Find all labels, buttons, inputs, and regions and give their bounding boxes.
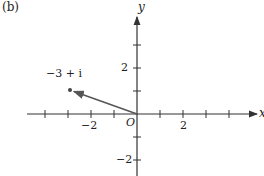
panel-label: (b) — [2, 0, 19, 14]
complex-plane-diagram — [0, 0, 264, 176]
origin-label: O — [126, 116, 135, 129]
point-marker — [68, 88, 72, 92]
vector-arrow — [74, 92, 137, 115]
x-tick-label-neg2: −2 — [81, 119, 97, 132]
x-tick-label-2: 2 — [180, 119, 187, 132]
y-tick-label-2: 2 — [121, 61, 128, 74]
y-tick-label-neg2: −2 — [116, 153, 132, 166]
x-axis-label: x — [259, 106, 264, 120]
y-axis-label: y — [138, 0, 145, 14]
point-label: −3 + i — [46, 67, 82, 80]
